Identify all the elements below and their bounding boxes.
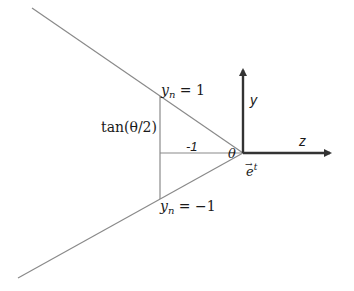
cone-lower-edge (18, 153, 243, 278)
tan-half-theta-label: tan(θ/2) (101, 119, 157, 135)
cone-diagram: yn = 1 tan(θ/2) -1 θ et → yn = −1 y z (0, 0, 354, 291)
z-axis-label: z (298, 133, 306, 149)
e-vector-arrow-icon: → (245, 159, 253, 169)
minus-one-label: -1 (186, 139, 198, 154)
yn-bottom-label: yn = −1 (159, 198, 216, 216)
y-axis-label: y (249, 92, 258, 108)
yn-top-label: yn = 1 (160, 82, 205, 100)
theta-label: θ (228, 146, 236, 161)
